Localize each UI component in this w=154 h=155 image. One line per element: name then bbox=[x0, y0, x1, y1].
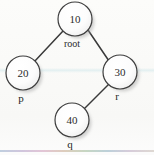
tree-diagram-figure: 10 20 30 40 root p r q bbox=[0, 0, 154, 155]
edge-root-to-left bbox=[34, 31, 63, 62]
edge-root-to-right bbox=[88, 30, 109, 61]
tree-canvas: 10 20 30 40 root p r q bbox=[0, 0, 154, 155]
label-q: q bbox=[67, 138, 73, 150]
node-left-value: 20 bbox=[18, 67, 30, 79]
label-p: p bbox=[18, 92, 24, 104]
node-root[interactable]: 10 bbox=[58, 2, 92, 36]
node-right-value: 30 bbox=[115, 66, 127, 78]
label-root: root bbox=[64, 38, 80, 49]
node-bottom-value: 40 bbox=[67, 114, 79, 126]
page-bottom-edge bbox=[0, 152, 154, 155]
node-bottom[interactable]: 40 bbox=[55, 103, 89, 137]
edge-right-to-bottom bbox=[83, 83, 110, 110]
label-r: r bbox=[115, 90, 119, 102]
node-right[interactable]: 30 bbox=[103, 55, 137, 89]
node-root-value: 10 bbox=[70, 13, 82, 25]
node-left[interactable]: 20 bbox=[6, 56, 40, 90]
